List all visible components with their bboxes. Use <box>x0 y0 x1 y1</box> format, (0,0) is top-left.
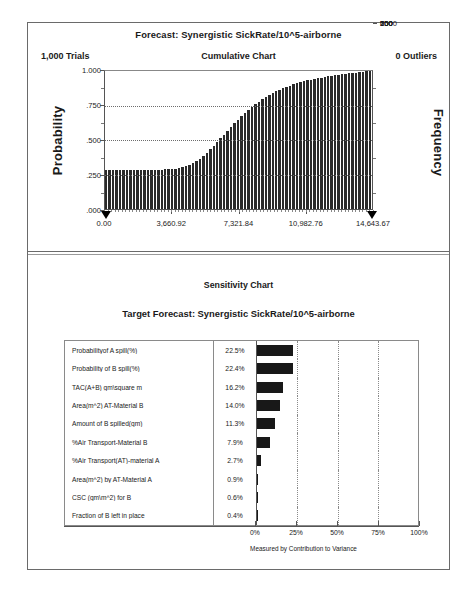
sensitivity-bar-zone <box>256 433 418 451</box>
sensitivity-row[interactable]: %Air Transport-Material B7.9% <box>65 433 418 451</box>
x-tick-minor <box>111 210 112 212</box>
sensitivity-value: 14.0% <box>213 396 256 414</box>
y-tick-label-probability: .750 <box>61 101 101 110</box>
sensitivity-table: Probabilityof A spill(%)22.5%Probability… <box>64 340 419 526</box>
x-tick-minor <box>313 210 314 212</box>
x-tick-label: 3,660.92 <box>141 219 201 228</box>
sensitivity-gridline <box>297 378 298 396</box>
x-tick-minor <box>249 210 250 212</box>
sensitivity-bar-zone <box>256 396 418 414</box>
x-tick-minor <box>362 210 363 212</box>
y-tick-mark <box>100 175 104 176</box>
sensitivity-title: Sensitivity Chart <box>28 280 449 290</box>
x-tick-minor <box>129 210 130 212</box>
x-tick-minor <box>359 210 360 212</box>
sensitivity-gridline <box>297 507 298 525</box>
y-tick-minor <box>101 123 104 124</box>
x-tick-minor <box>203 210 204 212</box>
x-tick-minor <box>288 210 289 212</box>
grabber-right[interactable] <box>367 211 377 219</box>
y-tick-minor <box>373 123 376 124</box>
sensitivity-gridline <box>338 359 339 377</box>
x-tick-minor <box>157 210 158 212</box>
cumulative-plot-area[interactable] <box>104 70 373 210</box>
sensitivity-bar <box>257 455 261 466</box>
sensitivity-bar <box>257 437 270 448</box>
sensitivity-value: 22.5% <box>213 341 256 359</box>
y-tick-label-probability: .000 <box>61 206 101 215</box>
sensitivity-gridline <box>338 451 339 469</box>
sensitivity-gridline <box>378 396 379 414</box>
sensitivity-gridline <box>338 433 339 451</box>
x-tick-minor <box>246 210 247 212</box>
panel-divider <box>28 251 449 252</box>
sensitivity-x-tick-label: 100% <box>399 529 439 536</box>
sensitivity-gridline <box>418 359 419 377</box>
x-tick-minor <box>331 210 332 212</box>
sensitivity-variable-name: %Air Transport-Material B <box>65 439 213 446</box>
x-tick-minor <box>175 210 176 212</box>
x-tick-minor <box>200 210 201 212</box>
sensitivity-gridline <box>418 341 419 359</box>
sensitivity-x-tick <box>255 521 256 526</box>
sensitivity-row[interactable]: Amount of B spilled(gm)11.3% <box>65 415 418 433</box>
grabber-left[interactable] <box>101 211 111 219</box>
x-tick-minor <box>217 210 218 212</box>
sensitivity-gridline <box>418 451 419 469</box>
y-tick-minor <box>101 193 104 194</box>
x-tick-minor <box>115 210 116 212</box>
sensitivity-row[interactable]: CSC (gm\m^2) for B0.6% <box>65 488 418 506</box>
x-tick-minor <box>231 210 232 212</box>
sensitivity-variable-name: Amount of B spilled(gm) <box>65 420 213 427</box>
sensitivity-gridline <box>297 396 298 414</box>
sensitivity-gridline <box>297 415 298 433</box>
x-tick-minor <box>185 210 186 212</box>
x-tick-minor <box>161 210 162 212</box>
sensitivity-gridline <box>378 470 379 488</box>
x-tick-minor <box>122 210 123 212</box>
sensitivity-variable-name: %Air Transport(AT)-material A <box>65 457 213 464</box>
sensitivity-row[interactable]: Fraction of B left in place0.4% <box>65 507 418 525</box>
sensitivity-bar <box>257 510 258 521</box>
y-axis-title-frequency: Frequency <box>431 88 446 198</box>
x-tick-minor <box>221 210 222 212</box>
sensitivity-value: 0.9% <box>213 470 256 488</box>
x-tick-minor <box>136 210 137 212</box>
cumulative-chart-label: Cumulative Chart <box>28 51 449 61</box>
sensitivity-row[interactable]: Area(m^2) by AT-Material A0.9% <box>65 470 418 488</box>
sensitivity-gridline <box>378 359 379 377</box>
sensitivity-row[interactable]: TAC(A+B) gm\square m16.2% <box>65 378 418 396</box>
sensitivity-bar-zone <box>256 470 418 488</box>
x-tick-minor <box>285 210 286 212</box>
x-tick-minor <box>292 210 293 212</box>
sensitivity-x-tick-label: 75% <box>358 529 398 536</box>
sensitivity-gridline <box>297 470 298 488</box>
sensitivity-row[interactable]: Probabilityof A spill(%)22.5% <box>65 341 418 359</box>
y-tick-label-probability: 1.000 <box>61 66 101 75</box>
sensitivity-gridline <box>338 488 339 506</box>
x-tick-minor <box>267 210 268 212</box>
sensitivity-x-tick <box>419 521 420 526</box>
x-tick-minor <box>309 210 310 212</box>
x-tick-minor <box>260 210 261 212</box>
x-tick-label: 7,321.84 <box>209 219 269 228</box>
sensitivity-bar <box>257 400 280 411</box>
sensitivity-row[interactable]: Area(m^2) AT-Material B14.0% <box>65 396 418 414</box>
sensitivity-x-tick-label: 25% <box>276 529 316 536</box>
sensitivity-x-tick <box>296 521 297 526</box>
y-tick-minor <box>101 88 104 89</box>
x-tick-minor <box>348 210 349 212</box>
y-tick-label-probability: .250 <box>61 171 101 180</box>
sensitivity-x-tick <box>337 521 338 526</box>
x-tick-minor <box>118 210 119 212</box>
sensitivity-row[interactable]: %Air Transport(AT)-material A2.7% <box>65 451 418 469</box>
sensitivity-row[interactable]: Probability of B spill(%)22.4% <box>65 359 418 377</box>
x-tick-minor <box>281 210 282 212</box>
sensitivity-bar-zone <box>256 341 418 359</box>
x-tick-minor <box>146 210 147 212</box>
x-tick-minor <box>295 210 296 212</box>
report-page: Forecast: Synergistic SickRate/10^5-airb… <box>0 0 476 596</box>
sensitivity-bar-zone <box>256 359 418 377</box>
x-tick-minor <box>139 210 140 212</box>
x-tick-minor <box>334 210 335 212</box>
